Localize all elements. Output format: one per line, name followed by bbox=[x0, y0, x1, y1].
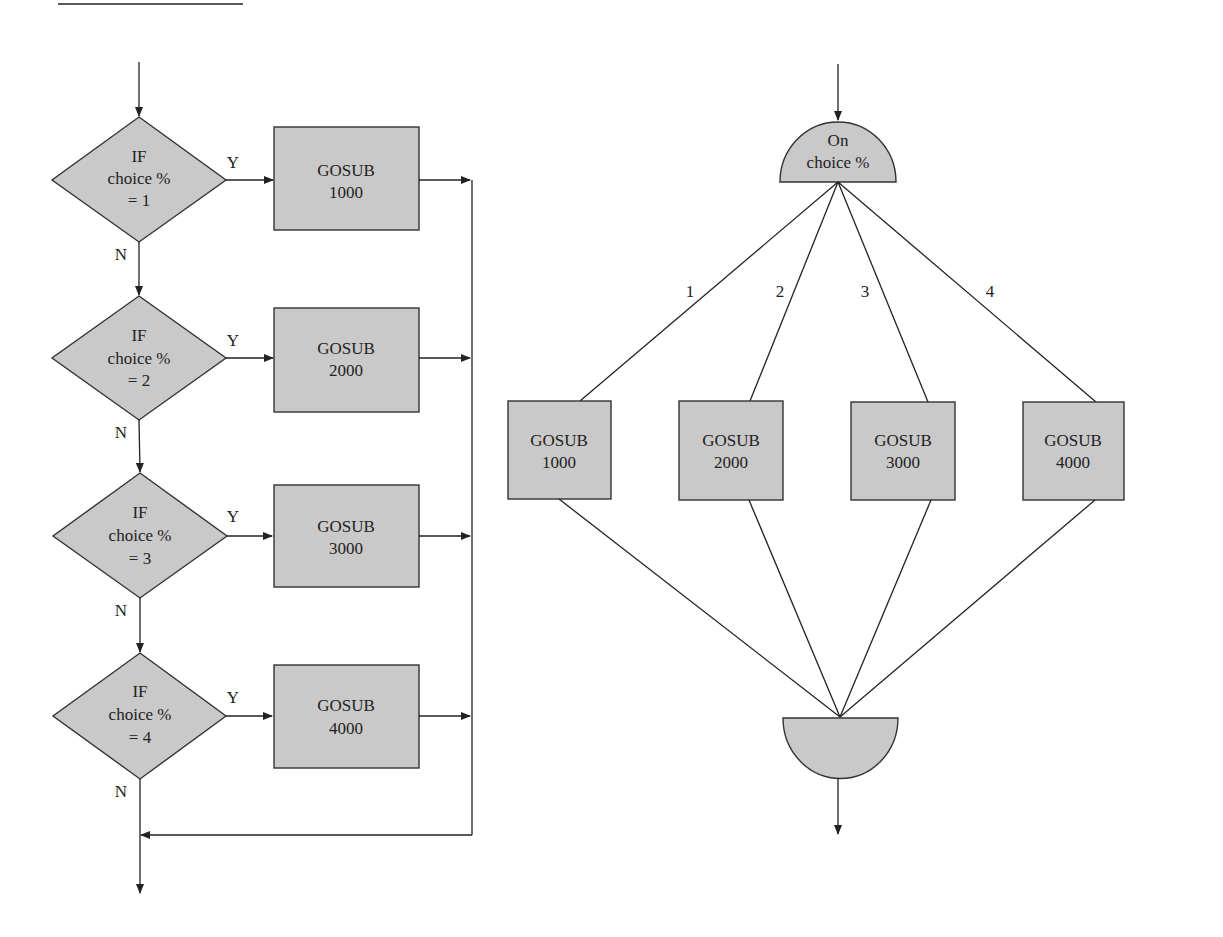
decision-text: choice % bbox=[108, 349, 171, 368]
action-text: 1000 bbox=[542, 453, 576, 472]
action-text: GOSUB bbox=[874, 431, 932, 450]
yes-label: Y bbox=[227, 688, 239, 707]
decision-4: IF choice % = 4 Y GOSUB 4000 N bbox=[53, 653, 470, 893]
action-text: 1000 bbox=[329, 183, 363, 202]
right-flowchart: On choice % 1 2 3 4 GOSUB 1000 GOSUB 200… bbox=[508, 64, 1124, 834]
action-text: 4000 bbox=[329, 719, 363, 738]
action-text: GOSUB bbox=[702, 431, 760, 450]
decision-text: = 3 bbox=[129, 549, 151, 568]
action-text: GOSUB bbox=[317, 339, 375, 358]
action-box bbox=[508, 401, 611, 499]
branch-label: 4 bbox=[986, 282, 995, 301]
decision-text: IF bbox=[132, 503, 147, 522]
flowchart-canvas: IF choice % = 1 Y GOSUB 1000 N IF choice… bbox=[0, 0, 1223, 937]
no-label: N bbox=[115, 423, 127, 442]
action-box bbox=[274, 665, 419, 768]
decision-text: = 2 bbox=[128, 371, 150, 390]
decision-text: choice % bbox=[108, 169, 171, 188]
yes-label: Y bbox=[227, 153, 239, 172]
action-text: GOSUB bbox=[317, 517, 375, 536]
action-text: 3000 bbox=[886, 453, 920, 472]
decision-text: = 4 bbox=[129, 728, 152, 747]
converge-line-4 bbox=[840, 500, 1095, 717]
action-text: GOSUB bbox=[1044, 431, 1102, 450]
action-box bbox=[851, 402, 955, 500]
branch-box-3: GOSUB 3000 bbox=[851, 402, 955, 500]
decision-3: IF choice % = 3 Y GOSUB 3000 N bbox=[53, 473, 470, 652]
no-arrow bbox=[139, 420, 140, 472]
decision-1: IF choice % = 1 Y GOSUB 1000 N bbox=[52, 117, 470, 295]
yes-label: Y bbox=[227, 331, 239, 350]
branch-box-1: GOSUB 1000 bbox=[508, 401, 611, 499]
converge-line-3 bbox=[840, 500, 931, 717]
branch-box-4: GOSUB 4000 bbox=[1023, 402, 1124, 500]
merge-node bbox=[783, 718, 898, 779]
decision-text: choice % bbox=[109, 526, 172, 545]
action-box bbox=[274, 308, 419, 412]
branch-box-2: GOSUB 2000 bbox=[679, 401, 783, 500]
yes-label: Y bbox=[227, 507, 239, 526]
decision-text: IF bbox=[131, 326, 146, 345]
branch-line-2 bbox=[750, 182, 838, 401]
action-text: 3000 bbox=[329, 539, 363, 558]
no-label: N bbox=[115, 245, 127, 264]
branch-label: 1 bbox=[686, 282, 695, 301]
converge-line-2 bbox=[749, 500, 840, 717]
decision-2: IF choice % = 2 Y GOSUB 2000 N bbox=[52, 296, 470, 472]
switch-text: choice % bbox=[807, 153, 870, 172]
no-label: N bbox=[115, 601, 127, 620]
converge-line-1 bbox=[559, 499, 840, 717]
no-label: N bbox=[115, 782, 127, 801]
action-box bbox=[274, 485, 419, 587]
switch-text: On bbox=[828, 131, 849, 150]
branch-label: 3 bbox=[861, 282, 870, 301]
action-text: GOSUB bbox=[530, 431, 588, 450]
action-text: 2000 bbox=[714, 453, 748, 472]
action-text: 4000 bbox=[1056, 453, 1090, 472]
decision-text: IF bbox=[131, 147, 146, 166]
action-text: 2000 bbox=[329, 361, 363, 380]
branch-line-4 bbox=[838, 182, 1096, 402]
decision-text: IF bbox=[132, 682, 147, 701]
decision-text: choice % bbox=[109, 705, 172, 724]
action-text: GOSUB bbox=[317, 161, 375, 180]
action-box bbox=[1023, 402, 1124, 500]
branch-label: 2 bbox=[776, 282, 785, 301]
left-flowchart: IF choice % = 1 Y GOSUB 1000 N IF choice… bbox=[52, 62, 472, 893]
branch-line-1 bbox=[580, 182, 838, 401]
branch-line-3 bbox=[838, 182, 928, 402]
action-text: GOSUB bbox=[317, 696, 375, 715]
action-box bbox=[679, 401, 783, 500]
decision-text: = 1 bbox=[128, 191, 150, 210]
